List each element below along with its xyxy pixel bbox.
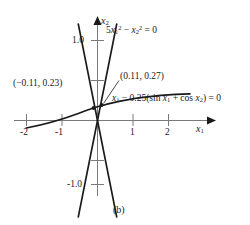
figure-caption: (b) xyxy=(113,205,125,215)
eq2-part6: ) = 0 xyxy=(203,93,221,103)
equation-label-parabola-pair: 5x12 − x22 = 0 xyxy=(106,25,157,36)
x-tick-label--2: -2 xyxy=(20,128,28,138)
intersection-marker-right xyxy=(100,103,104,107)
x-axis-label: x1 xyxy=(196,124,204,135)
figure-container: x2 x1 -2 -1 1 2 1.0 -1.0 5x12 − x22 = 0 … xyxy=(0,0,250,225)
eq2-part4: + cos xyxy=(170,93,195,103)
equation-label-sinusoid: x1 − 0.25(sin x1 + cos x2) = 0 xyxy=(112,94,221,104)
eq2-part2: − 0.25(sin xyxy=(119,93,162,103)
intersection-marker-left xyxy=(92,106,96,110)
eq1-suffix: = 0 xyxy=(142,25,157,35)
x-tick-label-1: 1 xyxy=(130,128,135,138)
x-axis-arrow-icon xyxy=(207,117,216,125)
annotation-intersection-right: (0.11, 0.27) xyxy=(120,72,164,82)
eq1-operator: − xyxy=(121,25,131,35)
x-tick-label-2: 2 xyxy=(165,128,170,138)
x-axis-label-sub: 1 xyxy=(200,127,203,134)
y-tick-label-1.0: 1.0 xyxy=(72,36,84,46)
y-tick-label-minus-1.0: -1.0 xyxy=(67,180,82,190)
annotation-intersection-left: (−0.11, 0.23) xyxy=(13,79,62,89)
x-tick-label--1: -1 xyxy=(55,128,63,138)
